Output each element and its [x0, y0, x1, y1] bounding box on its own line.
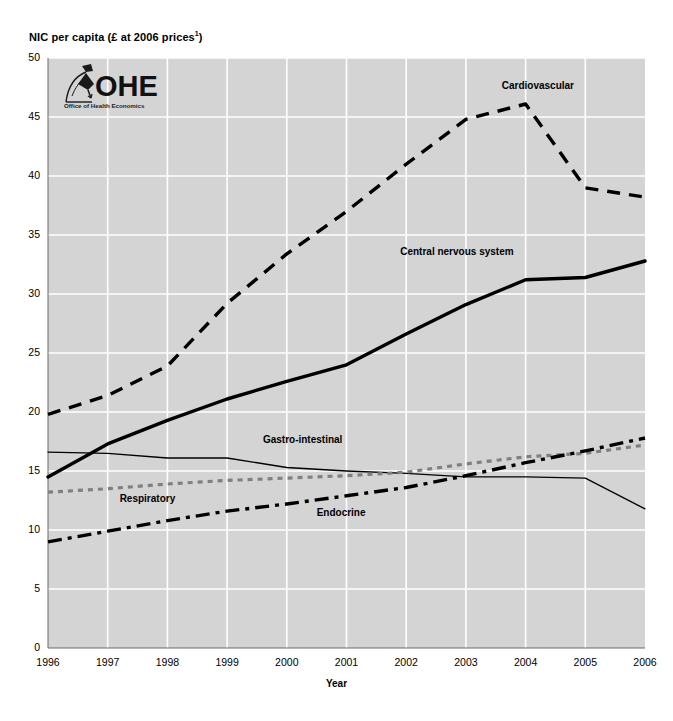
svg-text:OHE: OHE — [95, 70, 158, 102]
series-label-central-nervous-system: Central nervous system — [400, 246, 513, 257]
series-label-gastro-intestinal: Gastro-intestinal — [263, 434, 342, 445]
y-tick-label: 35 — [6, 229, 40, 239]
chart-container: NIC per capita (£ at 2006 prices1) OHE O… — [0, 0, 673, 721]
x-tick-label: 2001 — [317, 656, 377, 668]
x-tick-label: 1998 — [137, 656, 197, 668]
x-tick-label: 2000 — [257, 656, 317, 668]
y-tick-label: 20 — [6, 406, 40, 416]
y-tick-label: 15 — [6, 465, 40, 475]
y-tick-label: 5 — [6, 583, 40, 593]
y-tick-label: 30 — [6, 288, 40, 298]
x-tick-label: 2005 — [555, 656, 615, 668]
x-axis-title: Year — [0, 678, 673, 689]
y-tick-label: 50 — [6, 52, 40, 62]
x-tick-label: 1999 — [197, 656, 257, 668]
x-tick-label: 2004 — [496, 656, 556, 668]
x-tick-label: 2006 — [615, 656, 673, 668]
series-label-cardiovascular: Cardiovascular — [502, 80, 574, 91]
ohe-logo-subtitle: Office of Health Economics — [64, 102, 145, 109]
y-tick-label: 25 — [6, 347, 40, 357]
y-tick-label: 45 — [6, 111, 40, 121]
y-tick-label: 0 — [6, 642, 40, 652]
x-tick-label: 2002 — [376, 656, 436, 668]
x-tick-label: 1996 — [18, 656, 78, 668]
x-tick-label: 1997 — [78, 656, 138, 668]
series-label-endocrine: Endocrine — [317, 507, 366, 518]
ohe-logo: OHE Office of Health Economics — [58, 62, 170, 114]
y-tick-label: 10 — [6, 524, 40, 534]
y-tick-label: 40 — [6, 170, 40, 180]
series-label-respiratory: Respiratory — [120, 493, 176, 504]
x-tick-label: 2003 — [436, 656, 496, 668]
